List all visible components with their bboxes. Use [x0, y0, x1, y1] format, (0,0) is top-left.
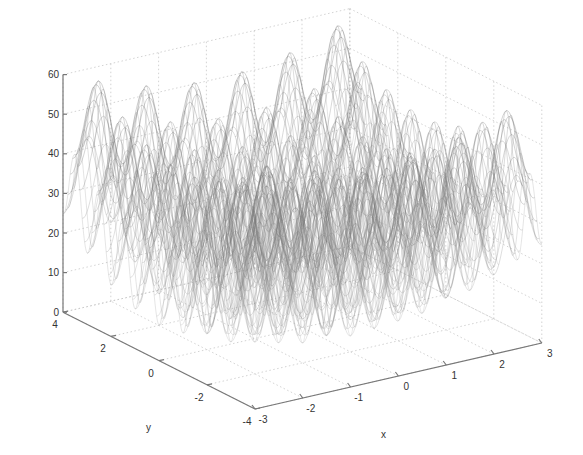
- z-tick-label: 20: [48, 228, 60, 239]
- z-tick-label: 40: [48, 148, 60, 159]
- mesh-line: [99, 62, 386, 201]
- y-tick-label: 0: [148, 368, 154, 379]
- y-tick: [159, 360, 164, 361]
- x-tick-label: -1: [354, 392, 363, 403]
- x-tick: [491, 350, 494, 354]
- grid-line: [350, 9, 542, 106]
- grid-line: [63, 9, 350, 75]
- x-tick-label: 3: [547, 348, 553, 359]
- x-tick-label: -3: [259, 414, 268, 425]
- y-tick-label: 4: [52, 319, 58, 330]
- surface-plot: 0102030405060-4-2024-3-2-10123 x y: [0, 0, 583, 455]
- z-tick-label: 60: [48, 69, 60, 80]
- x-tick: [443, 361, 446, 365]
- y-tick: [111, 335, 116, 336]
- x-tick: [395, 372, 398, 376]
- y-tick: [63, 311, 68, 312]
- x-tick: [348, 383, 351, 387]
- x-tick-label: 0: [404, 381, 410, 392]
- x-tick-label: 2: [499, 359, 505, 370]
- y-tick: [207, 384, 212, 385]
- z-tick-label: 0: [53, 307, 59, 318]
- y-tick-label: -4: [243, 416, 252, 427]
- x-tick-label: 1: [451, 370, 457, 381]
- y-tick-label: 2: [100, 343, 106, 354]
- y-tick: [255, 408, 260, 409]
- z-tick-label: 50: [48, 109, 60, 120]
- z-tick-label: 10: [48, 267, 60, 278]
- x-axis-label: x: [381, 429, 386, 440]
- z-tick-label: 30: [48, 188, 60, 199]
- x-tick: [300, 394, 303, 398]
- x-tick-label: -2: [306, 403, 315, 414]
- y-tick-label: -2: [195, 392, 204, 403]
- y-axis-label: y: [146, 422, 151, 433]
